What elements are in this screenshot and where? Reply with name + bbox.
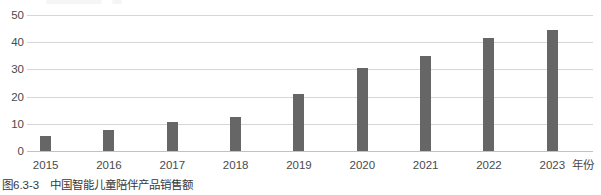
bar-2015 [40, 136, 51, 151]
x-tick-label-2015: 2015 [14, 158, 77, 172]
x-tick-label-2018: 2018 [204, 158, 267, 172]
bar-2019 [293, 94, 304, 151]
x-tick-label-2016: 2016 [77, 158, 140, 172]
figure-number: 图6.3-3 [2, 179, 39, 191]
bar-slot-2021 [394, 15, 457, 151]
bar-2017 [167, 122, 178, 151]
bar-slot-2016 [77, 15, 140, 151]
bar-slot-2015 [14, 15, 77, 151]
cropped-content-remnant [46, 0, 102, 4]
bar-2016 [103, 130, 114, 151]
sales-bar-chart-figure: 年份 图6.3-3中国智能儿童陪伴产品销售额 01020304050201520… [0, 0, 601, 195]
bar-slot-2018 [204, 15, 267, 151]
cropped-content-remnant [112, 0, 122, 4]
x-axis-line [27, 151, 593, 152]
figure-caption: 图6.3-3中国智能儿童陪伴产品销售额 [2, 178, 193, 192]
x-tick-label-2022: 2022 [457, 158, 520, 172]
bar-slot-2019 [267, 15, 330, 151]
x-tick-label-2021: 2021 [394, 158, 457, 172]
x-tick-label-2023: 2023 [521, 158, 584, 172]
bar-2018 [230, 117, 241, 151]
bar-2023 [547, 30, 558, 151]
figure-title: 中国智能儿童陪伴产品销售额 [50, 179, 193, 191]
bar-slot-2023 [521, 15, 584, 151]
x-tick-label-2017: 2017 [141, 158, 204, 172]
bar-slot-2020 [331, 15, 394, 151]
bar-2022 [483, 38, 494, 151]
bar-2020 [357, 68, 368, 151]
x-tick-label-2020: 2020 [331, 158, 394, 172]
bar-slot-2017 [141, 15, 204, 151]
bar-2021 [420, 56, 431, 151]
bar-slot-2022 [457, 15, 520, 151]
x-tick-label-2019: 2019 [267, 158, 330, 172]
